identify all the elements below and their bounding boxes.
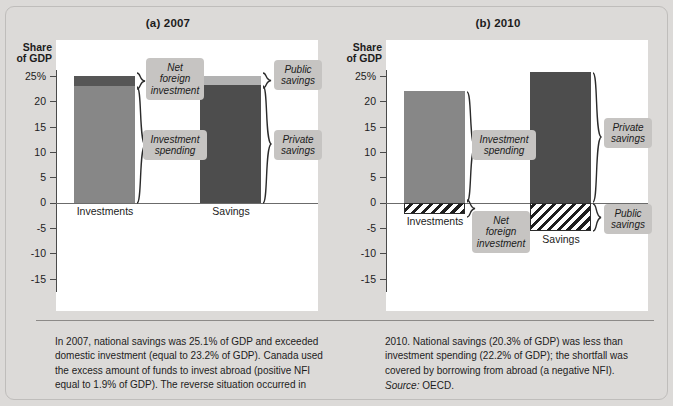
tick-a-neg15: [50, 279, 57, 280]
ticklabel-b-neg15: -15: [334, 274, 376, 284]
tick-b-25: [380, 76, 387, 77]
tick-b-neg15: [380, 279, 387, 280]
bar-label-a-savings: Savings: [186, 206, 276, 217]
caption-divider: [36, 320, 654, 321]
tag-a-net-foreign-investment: Net foreign investment: [146, 58, 204, 100]
tick-a-15: [50, 127, 57, 128]
panel-title-a: (a) 2007: [18, 16, 318, 30]
tag-a-public-savings-text: Public savings: [281, 64, 315, 87]
brace-b-public-savings: [592, 203, 604, 232]
ticklabel-b-5: 5: [334, 172, 376, 182]
bar-a-investments-spending-segment: [74, 86, 135, 203]
tag-b-investment-spending: Investment spending: [472, 130, 536, 160]
tag-a-net-foreign-investment-text: Net foreign investment: [151, 62, 199, 97]
ticklabel-a-neg15: -15: [4, 274, 46, 284]
tick-a-25: [50, 76, 57, 77]
tag-b-net-foreign-investment-text: Net foreign investment: [477, 215, 525, 250]
panel-title-b: (b) 2010: [348, 16, 648, 30]
tag-b-investment-spending-text: Investment spending: [480, 134, 529, 157]
y-axis-b: [386, 70, 387, 292]
tick-b-15: [380, 127, 387, 128]
ticklabel-b-20: 20: [334, 96, 376, 106]
ticklabel-a-15: 15: [4, 122, 46, 132]
tick-a-10: [50, 152, 57, 153]
tag-b-net-foreign-investment: Net foreign investment: [472, 211, 530, 253]
bar-a-savings-public-segment: [200, 76, 261, 85]
figure-container: (a) 2007 Share of GDP 25% 20 15 10 5 0 -…: [0, 0, 673, 406]
bar-label-a-investments: Investments: [60, 206, 150, 217]
caption-left: In 2007, national savings was 25.1% of G…: [55, 335, 327, 393]
caption-right-text: 2010. National savings (20.3% of GDP) wa…: [385, 336, 628, 376]
ticklabel-b-15: 15: [334, 122, 376, 132]
ticklabel-a-5: 5: [4, 172, 46, 182]
ticklabel-b-25: 25%: [334, 71, 376, 81]
brace-a-private-savings: [262, 85, 274, 204]
tick-b-20: [380, 101, 387, 102]
tick-b-5: [380, 177, 387, 178]
tag-a-private-savings: Private savings: [274, 130, 322, 160]
tick-a-neg10: [50, 253, 57, 254]
ticklabel-a-neg5: -5: [4, 223, 46, 233]
tag-b-public-savings: Public savings: [604, 204, 652, 234]
axis-title-b-line2: of GDP: [330, 53, 382, 65]
tag-b-private-savings: Private savings: [604, 118, 652, 148]
ticklabel-a-20: 20: [4, 96, 46, 106]
caption-source-label: Source:: [385, 380, 419, 391]
tick-b-neg5: [380, 228, 387, 229]
bar-b-savings-public-segment: [530, 203, 591, 231]
tag-a-investment-spending-text: Investment spending: [151, 134, 200, 157]
tick-a-neg5: [50, 228, 57, 229]
ticklabel-b-0: 0: [334, 197, 376, 207]
tag-b-private-savings-text: Private savings: [611, 122, 645, 145]
brace-b-private-savings: [592, 72, 604, 203]
ticklabel-a-25: 25%: [4, 71, 46, 81]
tag-a-public-savings: Public savings: [274, 60, 322, 90]
ticklabel-b-neg5: -5: [334, 223, 376, 233]
tick-a-5: [50, 177, 57, 178]
ticklabel-b-neg10: -10: [334, 248, 376, 258]
tag-b-public-savings-text: Public savings: [611, 208, 645, 231]
ticklabel-a-10: 10: [4, 147, 46, 157]
bar-b-investments-spending-segment: [404, 91, 465, 203]
tick-b-10: [380, 152, 387, 153]
caption-right: 2010. National savings (20.3% of GDP) wa…: [385, 335, 657, 394]
y-axis-a: [56, 70, 57, 292]
caption-source-value: OECD.: [419, 380, 453, 391]
tag-a-investment-spending: Investment spending: [143, 130, 207, 160]
ticklabel-a-neg10: -10: [4, 248, 46, 258]
ticklabel-a-0: 0: [4, 197, 46, 207]
bar-b-investments-nfi-segment: [404, 203, 465, 214]
tick-a-20: [50, 101, 57, 102]
tag-a-private-savings-text: Private savings: [281, 134, 315, 157]
bar-b-savings-private-segment: [530, 72, 591, 203]
bar-a-investments-nfi-segment: [74, 76, 135, 86]
axis-title-a-line2: of GDP: [0, 53, 52, 65]
zero-line-a: [56, 203, 318, 204]
bar-a-savings-private-segment: [200, 85, 261, 203]
tick-b-neg10: [380, 253, 387, 254]
ticklabel-b-10: 10: [334, 147, 376, 157]
